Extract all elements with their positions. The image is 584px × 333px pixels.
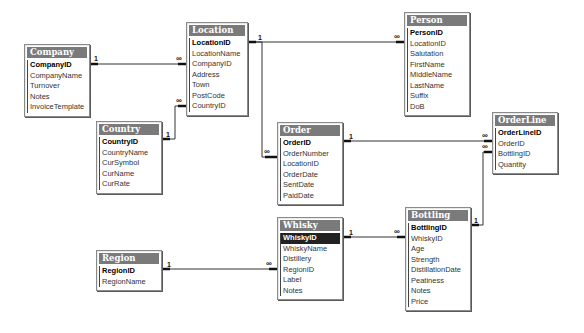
- cardinality-many: ∞: [394, 228, 399, 235]
- field[interactable]: MiddleName: [408, 70, 467, 81]
- field[interactable]: LocationID: [408, 39, 467, 50]
- cardinality-many: ∞: [176, 97, 181, 104]
- table-whisky[interactable]: Whisky WhiskyID WhiskyName Distillery Re…: [277, 217, 343, 300]
- field[interactable]: RegionID: [281, 265, 340, 276]
- field[interactable]: Age: [409, 244, 468, 255]
- cardinality-one: 1: [349, 133, 353, 140]
- field[interactable]: Notes: [409, 286, 468, 297]
- field[interactable]: DistillationDate: [409, 265, 468, 276]
- table-title[interactable]: Region: [99, 253, 159, 264]
- table-title[interactable]: Country: [99, 124, 159, 135]
- field[interactable]: CountryID: [190, 101, 245, 112]
- field[interactable]: Distillery: [281, 254, 340, 265]
- cardinality-one: 1: [167, 261, 171, 268]
- field[interactable]: PaidDate: [281, 191, 340, 202]
- field-primary-key[interactable]: OrderID: [281, 138, 340, 149]
- cardinality-many: ∞: [176, 55, 181, 62]
- field[interactable]: CurSymbol: [100, 158, 159, 169]
- field[interactable]: Quantity: [496, 160, 555, 171]
- cardinality-many: ∞: [482, 132, 487, 139]
- field[interactable]: Strength: [409, 255, 468, 266]
- field[interactable]: Suffix: [408, 91, 467, 102]
- table-title[interactable]: Bottling: [408, 210, 468, 221]
- cardinality-many: ∞: [264, 148, 269, 155]
- cardinality-one: 1: [94, 55, 98, 62]
- field[interactable]: LocationName: [190, 49, 245, 60]
- field[interactable]: CompanyName: [28, 71, 87, 82]
- field[interactable]: FirstName: [408, 60, 467, 71]
- field[interactable]: CurName: [100, 169, 159, 180]
- field[interactable]: CompanyID: [190, 59, 245, 70]
- cardinality-many: ∞: [394, 33, 399, 40]
- field[interactable]: RegionName: [100, 277, 159, 288]
- field-primary-key[interactable]: OrderLineID: [496, 128, 555, 139]
- field[interactable]: OrderID: [496, 139, 555, 150]
- field[interactable]: Notes: [28, 92, 87, 103]
- table-title[interactable]: Company: [27, 47, 87, 58]
- table-title[interactable]: OrderLine: [495, 115, 555, 126]
- field[interactable]: WhiskyID: [409, 234, 468, 245]
- field-primary-key-selected[interactable]: WhiskyID: [281, 233, 340, 244]
- field[interactable]: Turnover: [28, 81, 87, 92]
- table-title[interactable]: Order: [280, 125, 340, 136]
- table-title[interactable]: Location: [189, 25, 245, 36]
- field-primary-key[interactable]: PersonID: [408, 28, 467, 39]
- field[interactable]: InvoiceTemplate: [28, 102, 87, 113]
- table-bottling[interactable]: Bottling BottlingID WhiskyID Age Strengt…: [405, 207, 471, 311]
- field-primary-key[interactable]: CountryID: [100, 137, 159, 148]
- field[interactable]: LastName: [408, 81, 467, 92]
- field[interactable]: OrderDate: [281, 170, 340, 181]
- field[interactable]: Salutation: [408, 49, 467, 60]
- field[interactable]: CountryName: [100, 148, 159, 159]
- field[interactable]: Price: [409, 297, 468, 308]
- field[interactable]: WhiskyName: [281, 244, 340, 255]
- field-primary-key[interactable]: BottlingID: [409, 223, 468, 234]
- table-region[interactable]: Region RegionID RegionName: [96, 250, 162, 291]
- field[interactable]: PostCode: [190, 91, 245, 102]
- cardinality-one: 1: [258, 34, 262, 41]
- field[interactable]: Notes: [281, 286, 340, 297]
- field[interactable]: Label: [281, 275, 340, 286]
- table-title[interactable]: Person: [407, 15, 467, 26]
- table-orderline[interactable]: OrderLine OrderLineID OrderID BottlingID…: [492, 112, 558, 174]
- cardinality-one: 1: [474, 217, 478, 224]
- field-primary-key[interactable]: LocationID: [190, 38, 245, 49]
- cardinality-many: ∞: [482, 143, 487, 150]
- cardinality-many: ∞: [266, 260, 271, 267]
- field[interactable]: LocationID: [281, 159, 340, 170]
- field[interactable]: DoB: [408, 102, 467, 113]
- field[interactable]: SentDate: [281, 180, 340, 191]
- cardinality-one: 1: [349, 229, 353, 236]
- field[interactable]: OrderNumber: [281, 149, 340, 160]
- table-country[interactable]: Country CountryID CountryName CurSymbol …: [96, 121, 162, 194]
- field[interactable]: BottlingID: [496, 149, 555, 160]
- relationship-diagram: 1 ∞ 1 ∞ 1 ∞ ∞ 1 ∞ ∞ 1 1 ∞ 1 ∞ Company Co…: [0, 0, 584, 333]
- cardinality-one: 1: [166, 131, 170, 138]
- field[interactable]: Peatiness: [409, 276, 468, 287]
- field[interactable]: CurRate: [100, 179, 159, 190]
- field-primary-key[interactable]: RegionID: [100, 266, 159, 277]
- field[interactable]: Town: [190, 80, 245, 91]
- table-title[interactable]: Whisky: [280, 220, 340, 231]
- table-company[interactable]: Company CompanyID CompanyName Turnover N…: [24, 44, 90, 117]
- field[interactable]: Address: [190, 70, 245, 81]
- table-location[interactable]: Location LocationID LocationName Company…: [186, 22, 248, 116]
- table-person[interactable]: Person PersonID LocationID Salutation Fi…: [404, 12, 470, 116]
- table-order[interactable]: Order OrderID OrderNumber LocationID Ord…: [277, 122, 343, 205]
- field-primary-key[interactable]: CompanyID: [28, 60, 87, 71]
